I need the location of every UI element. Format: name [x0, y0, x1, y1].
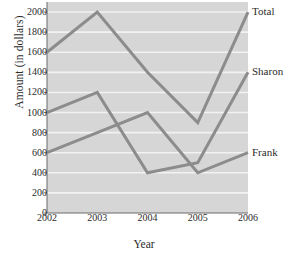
- y-axis-title: Amount (in dollars): [13, 0, 25, 137]
- series-label-sharon: Sharon: [252, 66, 283, 77]
- series-label-frank: Frank: [252, 147, 278, 158]
- series-labels: TotalSharonFrank: [0, 0, 288, 258]
- series-label-total: Total: [252, 6, 274, 17]
- x-axis-title: Year: [44, 238, 244, 250]
- line-chart: 0200400600800100012001400160018002000 20…: [0, 0, 288, 258]
